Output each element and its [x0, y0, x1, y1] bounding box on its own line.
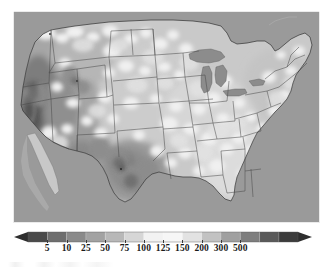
colorbar-tick-label-300: 300: [214, 243, 229, 253]
figure-root: 510255075100125150200300500: [0, 0, 326, 270]
colorbar-tick-label-75: 75: [120, 243, 130, 253]
colorbar-tick-label-125: 125: [156, 243, 171, 253]
colorbar-right-arrow: [298, 232, 312, 242]
colorbar-tick-labels: 510255075100125150200300500: [0, 243, 326, 259]
colorbar-tick-label-25: 25: [81, 243, 91, 253]
colorbar-tick-label-50: 50: [100, 243, 110, 253]
colorbar-tick-label-200: 200: [194, 243, 209, 253]
colorbar-tick-label-100: 100: [137, 243, 152, 253]
colorbar-tick-label-10: 10: [62, 243, 72, 253]
colorbar-tick-label-5: 5: [45, 243, 50, 253]
us-choropleth-map: [13, 11, 320, 223]
page-edge-artifact: [8, 262, 128, 267]
colorbar-tick-label-500: 500: [233, 243, 248, 253]
colorbar-tick-label-150: 150: [175, 243, 190, 253]
colorbar-left-arrow: [14, 232, 28, 242]
map-panel: [13, 11, 320, 223]
